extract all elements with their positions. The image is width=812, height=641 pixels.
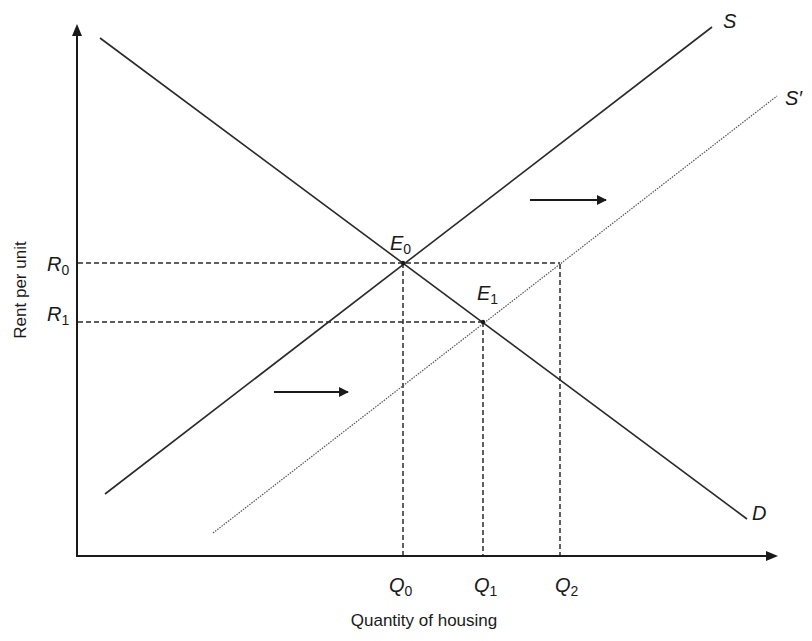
q2-label: Q2	[555, 575, 578, 598]
e1-point	[481, 320, 485, 324]
e0-label: E0	[390, 233, 411, 256]
q1-label: Q1	[474, 575, 497, 598]
e1-label: E1	[477, 283, 498, 306]
y-axis-arrow-icon	[72, 24, 82, 36]
y-axis-title: Rent per unit	[11, 241, 31, 338]
e0-point	[401, 261, 405, 265]
x-axis-arrow-icon	[766, 551, 778, 561]
r1-label: R1	[47, 304, 69, 327]
x-axis-title: Quantity of housing	[351, 611, 497, 631]
supply-curve	[105, 27, 712, 494]
axes	[72, 24, 778, 561]
demand-curve-label: D	[752, 503, 766, 523]
guide-lines	[78, 263, 560, 555]
supply-curve-label: S	[723, 11, 736, 31]
shifted-supply-curve-label: S′	[785, 88, 802, 108]
r0-label: R0	[47, 254, 69, 277]
demand-curve	[100, 38, 747, 519]
q0-label: Q0	[389, 575, 412, 598]
shifted-supply-curve	[213, 96, 777, 533]
supply-demand-diagram	[0, 0, 812, 641]
